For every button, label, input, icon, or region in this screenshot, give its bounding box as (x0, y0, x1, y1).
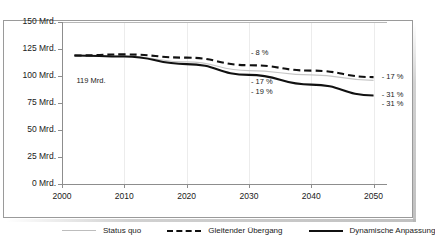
annotation-statusquo-2030: - 19 % (251, 87, 273, 96)
series-lines (62, 22, 386, 184)
y-axis-tick-label: 100 Mrd. (22, 71, 56, 80)
frame-shadow-right (413, 23, 416, 222)
y-axis-tick-label: 50 Mrd. (27, 125, 56, 134)
x-tick (187, 184, 188, 188)
annotation-statusquo-2050: - 31 % (382, 99, 404, 108)
legend-item-dynamische-anpassung[interactable]: Dynamische Anpassung (309, 226, 435, 235)
x-axis-tick-label: 2040 (302, 191, 321, 201)
series-line (74, 54, 373, 77)
x-tick (311, 184, 312, 188)
x-axis-tick-label: 2050 (364, 191, 383, 201)
legend-label-gleitender-uebergang: Gleitender Übergang (208, 226, 282, 235)
legend-label-status-quo: Status quo (103, 226, 141, 235)
y-axis-tick-label: 150 Mrd. (22, 17, 56, 26)
legend-item-gleitender-uebergang[interactable]: Gleitender Übergang (167, 226, 282, 235)
x-axis-tick-label: 2000 (53, 191, 72, 201)
y-axis-tick-label: 125 Mrd. (22, 44, 56, 53)
x-axis-tick-label: 2010 (115, 191, 134, 201)
x-tick (374, 184, 375, 188)
annotation-gleitend-2050: - 17 % (382, 72, 404, 81)
legend-swatch-dynamische-anpassung-icon (309, 226, 343, 235)
legend-swatch-gleitender-uebergang-icon (167, 226, 201, 235)
annotation-dynamisch-2030: - 17 % (251, 77, 273, 86)
annotation-dynamisch-2050: - 31 % (382, 90, 404, 99)
chart-legend: Status quo Gleitender Übergang Dynamisch… (0, 222, 428, 238)
legend-swatch-status-quo-icon (62, 226, 96, 235)
x-tick (249, 184, 250, 188)
x-axis-tick-label: 2030 (239, 191, 258, 201)
annotation-start-value: 119 Mrd. (76, 76, 105, 85)
legend-item-status-quo[interactable]: Status quo (62, 226, 141, 235)
series-line (74, 55, 373, 80)
x-axis-line (62, 184, 387, 185)
x-axis-tick-label: 2020 (177, 191, 196, 201)
y-axis-tick-label: 0 Mrd. (32, 179, 56, 188)
y-axis-tick-label: 25 Mrd. (27, 152, 56, 161)
legend-label-dynamische-anpassung: Dynamische Anpassung (350, 226, 435, 235)
x-tick (62, 184, 63, 188)
annotation-gleitend-2030: - 8 % (251, 48, 269, 57)
x-tick (124, 184, 125, 188)
y-axis-tick-label: 75 Mrd. (27, 98, 56, 107)
